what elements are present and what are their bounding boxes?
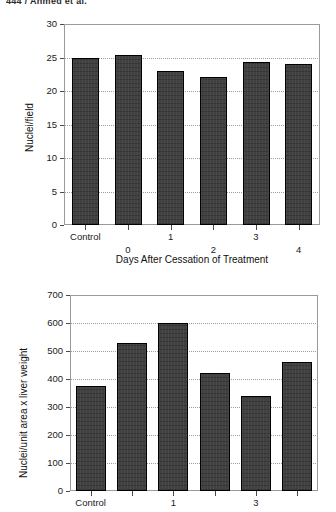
gridline <box>64 192 320 193</box>
y-tick-label: 0 <box>39 220 57 230</box>
x-tick-mark <box>299 225 300 230</box>
y-tick-mark <box>60 225 64 226</box>
y-tick-mark <box>66 407 70 408</box>
y-tick-mark <box>60 125 64 126</box>
y-tick-mark <box>60 24 64 25</box>
gridline <box>64 125 320 126</box>
y-tick-mark <box>60 192 64 193</box>
gridline <box>64 58 320 59</box>
y-tick-label: 20 <box>39 86 57 96</box>
y-tick-mark <box>66 379 70 380</box>
bar <box>76 386 106 491</box>
x-tick-mark <box>173 491 174 496</box>
gridline <box>70 379 318 380</box>
gridline <box>70 323 318 324</box>
bar <box>285 64 312 225</box>
y-tick-mark <box>60 58 64 59</box>
bar <box>117 343 147 491</box>
bar <box>200 77 227 225</box>
x-tick-label: 1 <box>141 231 201 242</box>
y-tick-mark <box>66 323 70 324</box>
y-tick-label: 30 <box>39 19 57 29</box>
y-tick-label: 600 <box>39 318 63 328</box>
y-axis-title-top: Nuclei/field <box>24 103 35 152</box>
gridline <box>70 407 318 408</box>
x-tick-mark <box>85 225 86 230</box>
x-tick-mark <box>91 491 92 496</box>
plot-area-bottom <box>70 295 318 491</box>
x-tick-mark <box>215 491 216 496</box>
gridline <box>70 351 318 352</box>
gridline <box>70 463 318 464</box>
x-tick-label: 1 <box>143 497 203 508</box>
x-tick-label: Control <box>55 231 115 242</box>
x-tick-mark <box>297 491 298 496</box>
y-tick-label: 15 <box>39 120 57 130</box>
x-tick-mark <box>128 225 129 230</box>
y-tick-label: 100 <box>39 458 63 468</box>
y-tick-mark <box>66 351 70 352</box>
y-tick-mark <box>60 158 64 159</box>
bar <box>115 55 142 225</box>
x-tick-mark <box>213 225 214 230</box>
bar <box>72 58 99 226</box>
y-tick-mark <box>66 295 70 296</box>
y-tick-label: 300 <box>39 402 63 412</box>
x-tick-mark <box>256 225 257 230</box>
bar <box>241 396 271 491</box>
y-axis-title-bottom: Nuclei/unit area x liver weight <box>18 348 29 478</box>
y-tick-label: 25 <box>39 53 57 63</box>
running-header: 444 / Ahmed et al. <box>6 0 87 4</box>
bar <box>158 323 188 491</box>
bar <box>243 62 270 225</box>
bar <box>157 71 184 225</box>
x-tick-label: Control <box>61 497 121 508</box>
x-axis-title-top: Days After Cessation of Treatment <box>64 254 320 265</box>
y-tick-mark <box>60 91 64 92</box>
y-tick-label: 200 <box>39 430 63 440</box>
y-tick-label: 500 <box>39 346 63 356</box>
y-tick-label: 0 <box>39 486 63 496</box>
x-tick-label: 3 <box>226 497 286 508</box>
bar <box>282 362 312 491</box>
x-tick-mark <box>132 491 133 496</box>
y-tick-mark <box>66 435 70 436</box>
bar <box>200 373 230 491</box>
gridline <box>70 435 318 436</box>
gridline <box>64 158 320 159</box>
x-tick-mark <box>256 491 257 496</box>
gridline <box>64 91 320 92</box>
y-tick-mark <box>66 463 70 464</box>
x-tick-label: 3 <box>226 231 286 242</box>
y-tick-mark <box>66 491 70 492</box>
x-tick-mark <box>171 225 172 230</box>
y-tick-label: 5 <box>39 187 57 197</box>
y-tick-label: 10 <box>39 153 57 163</box>
y-tick-label: 400 <box>39 374 63 384</box>
y-tick-label: 700 <box>39 290 63 300</box>
